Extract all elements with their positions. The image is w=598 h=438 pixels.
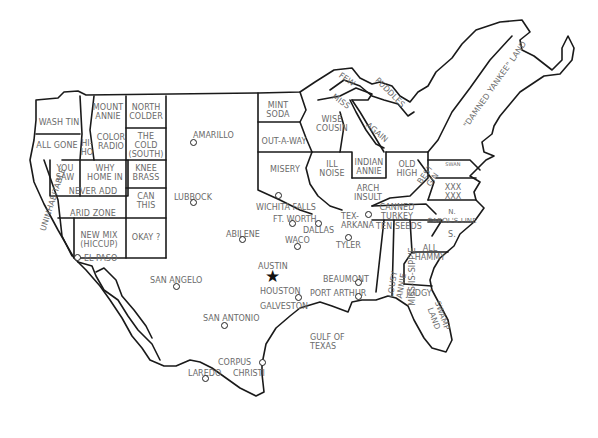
region-label-ky: ARCH INSULT bbox=[348, 184, 388, 202]
region-label-ne: KNEE BRASS bbox=[128, 164, 164, 182]
city-label: EL PASO bbox=[84, 254, 117, 263]
city-dot-icon bbox=[74, 254, 81, 261]
city-dot-icon bbox=[355, 293, 362, 300]
city-dot-icon bbox=[190, 199, 197, 206]
region-label-mn: MINT SODA bbox=[258, 101, 298, 119]
region-label-nd: NORTH COLDER bbox=[128, 103, 164, 121]
city-dot-icon bbox=[355, 279, 362, 286]
city-label: HOUSTON bbox=[260, 287, 300, 296]
region-label-al: JUDGY bbox=[403, 289, 435, 298]
city-dot-icon bbox=[289, 220, 296, 227]
city-label: SAN ANTONIO bbox=[203, 314, 260, 323]
city-dot-icon bbox=[294, 243, 301, 250]
region-label-az: ARID ZONE bbox=[58, 209, 128, 218]
region-label-nm: NEW MIX (HICCUP) bbox=[74, 231, 124, 249]
city-dot-icon bbox=[365, 211, 372, 218]
region-label-id: HI- HO bbox=[80, 139, 94, 157]
city-label: TYLER bbox=[336, 241, 361, 250]
city-dot-icon bbox=[315, 220, 322, 227]
city-dot-icon bbox=[221, 322, 228, 329]
city-label: CORPUS bbox=[218, 358, 251, 367]
region-label-mt: MOUNT ANNIE bbox=[90, 103, 126, 121]
region-label-wy: COLOR RADIO bbox=[94, 133, 128, 151]
region-label-ar: TEN SEEDS bbox=[374, 222, 424, 231]
region-label-wi: WISE COUSIN bbox=[312, 115, 352, 133]
region-label-in: INDIAN ANNIE bbox=[352, 158, 386, 176]
region-label-ks: CAN THIS bbox=[128, 192, 164, 210]
city-dot-icon bbox=[345, 234, 352, 241]
region-label-il: ILL NOISE bbox=[314, 160, 350, 178]
city-label: GALVESTON bbox=[260, 302, 308, 311]
city-dot-icon bbox=[202, 375, 209, 382]
city-dot-icon bbox=[259, 359, 266, 366]
region-label-va: XXX XXX bbox=[438, 183, 468, 201]
city-dot-icon bbox=[295, 294, 302, 301]
city-label: GULF OF TEXAS bbox=[310, 333, 345, 351]
city-label: DALLAS bbox=[303, 226, 334, 235]
capital-star-icon: ★ bbox=[265, 268, 280, 285]
city-label: CHRISTI bbox=[233, 369, 265, 378]
region-label-mo: MISERY bbox=[262, 165, 308, 174]
region-label-nc: N. CAROL'S LINE bbox=[426, 208, 478, 226]
city-label: WICHITA FALLS bbox=[256, 203, 316, 212]
region-label-md: SWAN bbox=[442, 160, 464, 169]
city-label: BEAUMONT bbox=[323, 275, 369, 284]
region-label-co: NEVER ADD bbox=[58, 187, 128, 196]
region-label-tn: CANNED TURKEY bbox=[372, 203, 422, 221]
city-dot-icon bbox=[173, 283, 180, 290]
region-label-sd: THE COLD (SOUTH) bbox=[128, 132, 164, 159]
region-label-wa: WASH TIN bbox=[38, 118, 80, 127]
region-label-ok: OKAY ? bbox=[126, 233, 166, 242]
city-dot-icon bbox=[239, 236, 246, 243]
region-label-ut: WHY HOME IN bbox=[82, 164, 128, 182]
region-label-ia: OUT-A-WAY bbox=[256, 137, 312, 146]
city-label: AMARILLO bbox=[193, 131, 234, 140]
region-label-or: ALL GONE bbox=[34, 141, 80, 150]
city-dot-icon bbox=[190, 139, 197, 146]
region-label-sc: S. bbox=[442, 230, 462, 239]
city-dot-icon bbox=[275, 192, 282, 199]
